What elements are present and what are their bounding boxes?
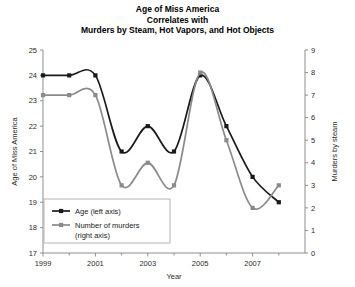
legend-label-age: Age (left axis) xyxy=(75,207,121,216)
x-axis-tick-label: 2007 xyxy=(244,259,261,268)
y-axis-right-tick-label: 1 xyxy=(311,226,315,235)
y-axis-right-tick-label: 7 xyxy=(311,91,315,100)
series-age xyxy=(41,70,281,205)
legend-label-murders: Number of murders xyxy=(75,221,140,230)
legend-marker-murders xyxy=(59,223,63,227)
y-axis-left-tick-label: 23 xyxy=(29,96,37,105)
y-axis-right-tick-label: 2 xyxy=(311,204,315,213)
data-point-marker xyxy=(224,138,228,142)
y-axis-right-tick-label: 4 xyxy=(311,158,315,167)
series-layer xyxy=(41,70,281,210)
y-axis-right-tick-label: 5 xyxy=(311,136,315,145)
data-point-marker xyxy=(172,183,176,187)
legend-layer: Age (left axis)Number of murders(right a… xyxy=(44,199,170,243)
y-axis-left-tick-label: 19 xyxy=(29,198,37,207)
data-point-marker xyxy=(277,200,281,204)
y-axis-left-tick-label: 17 xyxy=(29,249,37,258)
series-line xyxy=(43,70,279,203)
data-point-marker xyxy=(198,70,202,74)
y-axis-left-tick-label: 20 xyxy=(29,173,37,182)
data-point-marker xyxy=(120,183,124,187)
x-axis-tick-label: 2005 xyxy=(192,259,209,268)
y-axis-right-tick-label: 3 xyxy=(311,181,315,190)
data-point-marker xyxy=(67,93,71,97)
chart-plot: 1718192021222324250123456789199920012003… xyxy=(0,0,355,287)
y-axis-right-tick-label: 6 xyxy=(311,113,315,122)
y-axis-right-tick-label: 8 xyxy=(311,68,315,77)
y-axis-right-tick-label: 0 xyxy=(311,249,315,258)
series-murders xyxy=(41,70,281,210)
y-axis-right-tick-label: 9 xyxy=(311,46,315,55)
axes-layer: 1718192021222324250123456789199920012003… xyxy=(10,46,339,281)
data-point-marker xyxy=(172,149,176,153)
y-axis-right-title: Murders by steam xyxy=(330,121,339,181)
x-axis-tick-label: 2001 xyxy=(87,259,104,268)
data-point-marker xyxy=(146,161,150,165)
legend-label-murders-second-line: (right axis) xyxy=(75,231,111,240)
data-point-marker xyxy=(41,73,45,77)
y-axis-left-tick-label: 21 xyxy=(29,147,37,156)
data-point-marker xyxy=(120,149,124,153)
data-point-marker xyxy=(224,124,228,128)
data-point-marker xyxy=(277,183,281,187)
y-axis-left-tick-label: 25 xyxy=(29,46,37,55)
y-axis-left-tick-label: 22 xyxy=(29,122,37,131)
x-axis-tick-label: 2003 xyxy=(139,259,156,268)
legend-marker-age xyxy=(59,209,63,213)
data-point-marker xyxy=(67,73,71,77)
data-point-marker xyxy=(146,124,150,128)
data-point-marker xyxy=(251,175,255,179)
data-point-marker xyxy=(93,93,97,97)
x-axis-title: Year xyxy=(166,272,182,281)
y-axis-left-tick-label: 24 xyxy=(29,71,37,80)
data-point-marker xyxy=(251,206,255,210)
chart-container: Age of Miss America Correlates with Murd… xyxy=(0,0,355,287)
y-axis-left-title: Age of Miss America xyxy=(10,116,19,185)
y-axis-left-tick-label: 18 xyxy=(29,223,37,232)
data-point-marker xyxy=(41,93,45,97)
x-axis-tick-label: 1999 xyxy=(35,259,52,268)
data-point-marker xyxy=(93,73,97,77)
